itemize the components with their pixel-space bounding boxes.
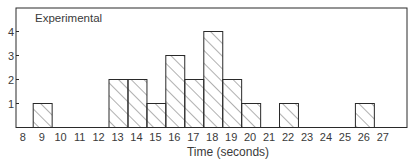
- x-tick-label: 22: [282, 131, 294, 143]
- histogram-bar: [185, 80, 204, 128]
- y-tick-label: 1: [8, 98, 14, 110]
- x-tick-label: 21: [263, 131, 275, 143]
- x-tick-label: 27: [377, 131, 389, 143]
- x-tick-label: 26: [358, 131, 370, 143]
- histogram-bar: [355, 104, 374, 128]
- x-tick-label: 15: [149, 131, 161, 143]
- bars-group: [33, 32, 374, 128]
- x-tick-label: 13: [111, 131, 123, 143]
- x-tick-label: 17: [187, 131, 199, 143]
- histogram-bar: [147, 104, 166, 128]
- x-tick-label: 25: [339, 131, 351, 143]
- x-tick-label: 12: [92, 131, 104, 143]
- x-tick-label: 11: [74, 131, 85, 143]
- x-tick-label: 18: [206, 131, 218, 143]
- histogram-bar: [242, 104, 261, 128]
- x-tick-label: 23: [301, 131, 313, 143]
- histogram-bar: [109, 80, 128, 128]
- histogram-bar: [280, 104, 299, 128]
- histogram-bar: [204, 32, 223, 128]
- x-axis-title: Time (seconds): [187, 145, 269, 159]
- series-annotation: Experimental: [35, 12, 102, 24]
- x-tick-label: 8: [20, 131, 26, 143]
- y-tick-label: 3: [8, 50, 14, 62]
- histogram-chart: 1234 89101112131415161718192021222324252…: [0, 0, 413, 164]
- y-axis: 1234: [8, 26, 19, 110]
- x-axis: 89101112131415161718192021222324252627: [20, 131, 389, 143]
- histogram-bar: [33, 104, 52, 128]
- y-tick-label: 2: [8, 74, 14, 86]
- x-tick-label: 24: [320, 131, 332, 143]
- x-tick-label: 14: [130, 131, 142, 143]
- x-tick-label: 20: [244, 131, 256, 143]
- histogram-bar: [223, 80, 242, 128]
- x-tick-label: 10: [54, 131, 66, 143]
- x-tick-label: 16: [168, 131, 180, 143]
- histogram-bar: [128, 80, 147, 128]
- y-tick-label: 4: [8, 26, 14, 38]
- histogram-bar: [166, 56, 185, 128]
- x-tick-label: 19: [225, 131, 237, 143]
- x-tick-label: 9: [39, 131, 45, 143]
